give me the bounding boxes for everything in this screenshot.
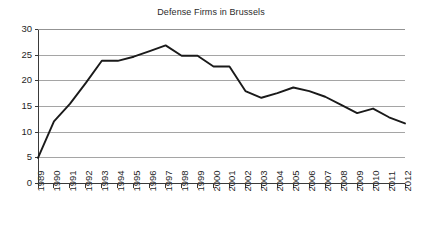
y-tick-label-10: 10 (21, 126, 32, 137)
x-tick-label-1993: 1993 (99, 170, 110, 191)
y-tick-label-30: 30 (21, 23, 32, 34)
x-tick-label-2001: 2001 (226, 170, 237, 191)
x-tick-label-2011: 2011 (386, 171, 397, 191)
x-tick-label-2012: 2012 (402, 170, 413, 191)
y-tick-label-15: 15 (21, 100, 32, 111)
chart-container: Defense Firms in Brussels 051015202530 1… (0, 0, 422, 228)
x-tick-label-1989: 1989 (35, 170, 46, 191)
x-tick-label-1990: 1990 (51, 170, 62, 191)
x-tick-label-2009: 2009 (354, 170, 365, 191)
x-tick-label-1997: 1997 (163, 170, 174, 191)
x-tick-label-2005: 2005 (290, 170, 301, 191)
x-tick-labels: 1989199019911992199319941995199619971998… (35, 170, 413, 191)
x-tick-label-1994: 1994 (115, 170, 126, 191)
x-tick-label-2010: 2010 (370, 170, 381, 191)
x-tick-label-2007: 2007 (322, 170, 333, 191)
x-tick-label-2003: 2003 (258, 170, 269, 191)
x-tick-label-2004: 2004 (274, 170, 285, 191)
x-tick-label-1996: 1996 (147, 170, 158, 191)
y-tick-label-5: 5 (27, 151, 32, 162)
series-line-0 (38, 45, 405, 157)
y-tick-label-0: 0 (27, 177, 32, 188)
x-tick-label-2006: 2006 (306, 170, 317, 191)
x-tick-label-2002: 2002 (242, 170, 253, 191)
x-tick-label-1995: 1995 (131, 170, 142, 191)
x-tick-label-2008: 2008 (338, 170, 349, 191)
gridlines (38, 30, 405, 158)
y-tick-marks (35, 30, 39, 184)
y-tick-label-25: 25 (21, 49, 32, 60)
x-tick-label-1999: 1999 (195, 170, 206, 191)
x-tick-label-1991: 1991 (67, 170, 78, 191)
x-tick-label-1998: 1998 (179, 170, 190, 191)
line-chart-plot: 051015202530 198919901991199219931994199… (0, 0, 422, 228)
x-tick-label-1992: 1992 (83, 170, 94, 191)
data-series (38, 45, 405, 157)
y-tick-labels: 051015202530 (21, 23, 32, 188)
y-tick-label-20: 20 (21, 74, 32, 85)
x-tick-label-2000: 2000 (211, 170, 222, 191)
